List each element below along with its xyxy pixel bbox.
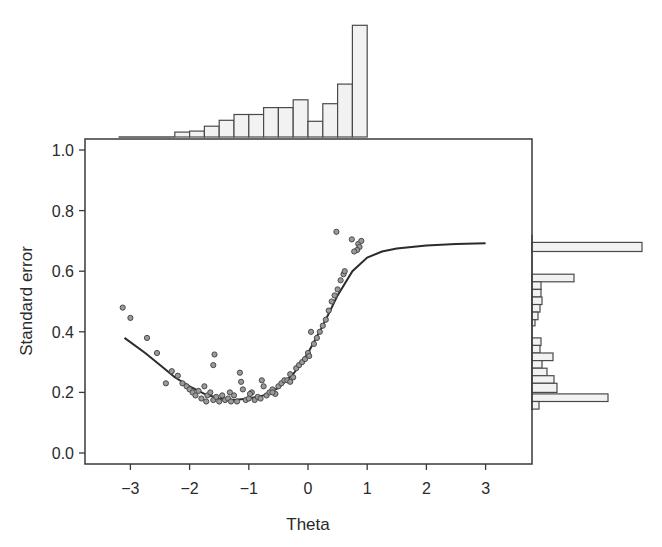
data-point [196, 388, 201, 393]
y-axis-title: Standard error [17, 246, 36, 356]
data-point [240, 387, 245, 392]
histogram-bar [532, 282, 541, 290]
data-point [317, 329, 322, 334]
data-point [334, 229, 339, 234]
data-point [352, 249, 357, 254]
data-point [204, 399, 209, 404]
data-point [288, 379, 293, 384]
x-tick-label: −3 [121, 480, 139, 497]
data-point [208, 390, 213, 395]
histogram-bar [219, 120, 234, 137]
y-tick-label: 0.6 [52, 263, 74, 280]
data-point [270, 390, 275, 395]
data-point [320, 323, 325, 328]
data-point [308, 329, 313, 334]
histogram-bar [532, 402, 539, 410]
data-point [144, 335, 149, 340]
histogram-bar [532, 274, 574, 282]
histogram-bar [532, 394, 608, 402]
histogram-bar [532, 368, 547, 376]
data-point [211, 363, 216, 368]
data-point [359, 238, 364, 243]
histogram-bar [352, 25, 367, 137]
top-marginal-histogram [119, 25, 368, 137]
data-point [237, 370, 242, 375]
data-point [239, 379, 244, 384]
histogram-bar [532, 289, 541, 297]
right-marginal-histogram [532, 235, 642, 411]
histogram-bar [308, 121, 323, 137]
x-tick-label: 0 [304, 480, 313, 497]
y-tick-label: 0.2 [52, 384, 74, 401]
histogram-bar [532, 242, 642, 251]
data-point [234, 399, 239, 404]
data-point [349, 237, 354, 242]
x-axis-title: Theta [286, 515, 330, 534]
data-point [169, 369, 174, 374]
histogram-bar [532, 383, 557, 392]
data-point [332, 293, 337, 298]
histogram-bar [234, 115, 249, 138]
plot-frame [85, 139, 532, 464]
histogram-bar [204, 126, 219, 137]
data-point [326, 308, 331, 313]
histogram-bar [264, 108, 279, 137]
data-point [311, 341, 316, 346]
histogram-bar [532, 297, 542, 305]
data-point [323, 317, 328, 322]
data-point [128, 315, 133, 320]
data-point [217, 399, 222, 404]
y-tick-label: 0.0 [52, 445, 74, 462]
data-point [212, 352, 217, 357]
data-point [199, 396, 204, 401]
y-tick-label: 0.8 [52, 203, 74, 220]
data-point [202, 384, 207, 389]
scatter-plot-with-marginal-histograms: 0.00.20.40.60.81.0 −3−2−10123 Theta Stan… [0, 0, 662, 547]
histogram-bar [323, 104, 338, 137]
histogram-bar [532, 312, 538, 320]
histogram-bar [532, 376, 554, 384]
x-tick-label: 3 [481, 480, 490, 497]
data-point [154, 350, 159, 355]
histogram-bar [338, 84, 353, 137]
x-tick-label: −1 [240, 480, 258, 497]
data-point [307, 353, 312, 358]
y-tick-label: 0.4 [52, 324, 74, 341]
x-axis: −3−2−10123 [121, 464, 490, 497]
histogram-bar [175, 132, 190, 137]
histogram-bar [532, 353, 553, 361]
data-point [247, 391, 252, 396]
data-point [335, 287, 340, 292]
histogram-bar [190, 131, 205, 137]
data-point [228, 399, 233, 404]
histogram-bar [532, 338, 541, 346]
histogram-bar [532, 345, 540, 353]
histogram-bar [249, 115, 264, 138]
y-axis: 0.00.20.40.60.81.0 [52, 142, 85, 462]
histogram-bar [532, 305, 540, 313]
data-point [329, 299, 334, 304]
data-point [259, 378, 264, 383]
data-point [163, 381, 168, 386]
x-tick-label: −2 [180, 480, 198, 497]
data-point [258, 396, 263, 401]
data-point [261, 384, 266, 389]
x-tick-label: 2 [422, 480, 431, 497]
data-point [120, 305, 125, 310]
data-point [227, 390, 232, 395]
histogram-bar [532, 361, 542, 369]
x-tick-label: 1 [363, 480, 372, 497]
data-point [338, 278, 343, 283]
data-point [314, 335, 319, 340]
histogram-bar [293, 100, 308, 137]
data-point [175, 373, 180, 378]
data-point [342, 269, 347, 274]
y-tick-label: 1.0 [52, 142, 74, 159]
histogram-bar [278, 108, 293, 137]
